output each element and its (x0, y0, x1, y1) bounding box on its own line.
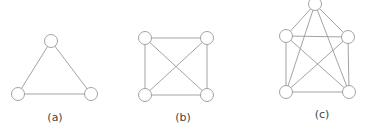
node (201, 89, 214, 102)
graph-a (12, 35, 98, 101)
edge (286, 36, 348, 37)
node (12, 88, 25, 101)
graph-b (139, 32, 214, 102)
edge (315, 4, 348, 37)
graph-c (280, 0, 356, 99)
edge (18, 41, 51, 94)
edge (348, 37, 349, 92)
node (280, 86, 293, 99)
label-c: (c) (315, 108, 330, 121)
label-a: (a) (47, 111, 62, 124)
label-b: (b) (175, 111, 191, 124)
node (201, 32, 214, 45)
node (309, 0, 322, 11)
node (85, 88, 98, 101)
node (342, 31, 355, 44)
node (343, 86, 356, 99)
node (280, 30, 293, 43)
graph-diagram-canvas (0, 0, 367, 127)
node (139, 89, 152, 102)
node (45, 35, 58, 48)
edge (315, 4, 349, 92)
edge (51, 41, 91, 94)
node (139, 32, 152, 45)
